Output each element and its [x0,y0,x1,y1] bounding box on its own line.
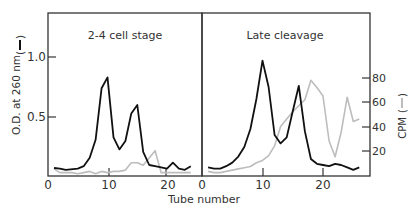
svg-text:): ) [14,35,26,39]
x-tick-right-10: 10 [255,178,270,192]
cpm-line-right [208,80,359,172]
y2-tick-60: 60 [372,96,386,109]
figure: 2-4 cell stage Late cleavage 1.0 0.5 O.D… [0,0,419,215]
x-tick-right-20: 20 [315,178,330,192]
x-axis: 0 10 20 0 10 20 Tube number [44,168,330,206]
right-y-axis: 80 60 40 20 CPM ( ) [362,72,408,158]
left-panel: 2-4 cell stage [48,13,202,176]
y-tick-0.5: 0.5 [27,110,46,124]
x-tick-left-0: 0 [44,178,52,192]
right-panel-title: Late cleavage [246,29,323,42]
x-tick-left-10: 10 [101,178,116,192]
x-axis-label: Tube number [167,193,241,206]
od-legend-symbol: ( ) [14,35,26,55]
right-panel: Late cleavage [202,13,370,176]
cpm-legend-symbol: ( ) [397,93,408,113]
left-panel-title: 2-4 cell stage [88,29,163,42]
y2-tick-40: 40 [372,121,386,134]
svg-text:(: ( [397,109,408,113]
y2-tick-20: 20 [372,145,386,158]
y-tick-1.0: 1.0 [27,50,46,64]
svg-text:(: ( [14,51,26,55]
left-y-axis-label: O.D. at 260 nm [10,55,22,135]
svg-text:): ) [397,93,408,97]
x-tick-left-20: 20 [160,178,175,192]
right-y-axis-label: CPM [397,117,408,139]
data-lines [54,61,359,174]
od-line-left [54,77,191,169]
y2-tick-80: 80 [372,72,386,85]
cpm-line-left [54,151,191,174]
x-tick-right-0: 0 [198,178,206,192]
left-y-axis: 1.0 0.5 O.D. at 260 nm ( ) [10,35,56,135]
